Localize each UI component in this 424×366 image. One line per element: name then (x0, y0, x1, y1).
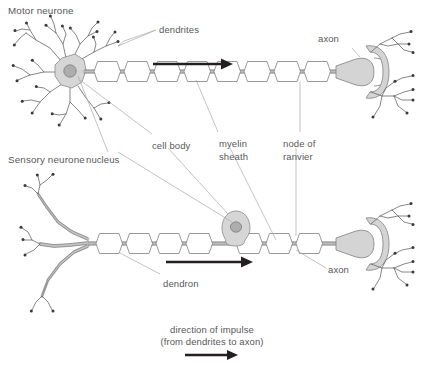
motor-axon-terminal (336, 30, 415, 119)
label-cell-body: cell body (152, 140, 191, 151)
sensory-axon-terminal (336, 202, 415, 291)
caption-direction-line1: direction of impulse (170, 324, 254, 335)
label-axon-bottom: axon (328, 264, 349, 275)
caption-impulse-arrow (185, 350, 238, 360)
sensory-nucleus (230, 222, 241, 232)
label-dendrites: dendrites (159, 24, 199, 35)
motor-neurone-title: Motor neurone (8, 5, 74, 16)
sensory-myelin-sheath (96, 234, 323, 254)
label-myelin-sheath-line2: sheath (219, 151, 248, 162)
label-nucleus: nucleus (86, 154, 120, 165)
label-myelin-sheath-line1: myelin (219, 138, 247, 149)
label-dendron: dendron (163, 278, 199, 289)
sensory-impulse-arrow (166, 257, 253, 268)
motor-neurone-figure (12, 15, 415, 127)
motor-nucleus (64, 65, 76, 77)
label-node-of-ranvier-line1: node of (283, 138, 316, 149)
sensory-dendron (20, 173, 89, 313)
label-axon-top: axon (318, 33, 339, 44)
neurone-diagram: Motor neurone Sensory neurone (0, 0, 424, 366)
diagram-canvas: Motor neurone Sensory neurone (0, 0, 424, 366)
sensory-neurone-title: Sensory neurone (8, 154, 85, 165)
sensory-neurone-figure (20, 173, 415, 313)
caption-direction-line2: (from dendrites to axon) (160, 336, 263, 347)
label-node-of-ranvier-line2: ranvier (283, 151, 313, 162)
